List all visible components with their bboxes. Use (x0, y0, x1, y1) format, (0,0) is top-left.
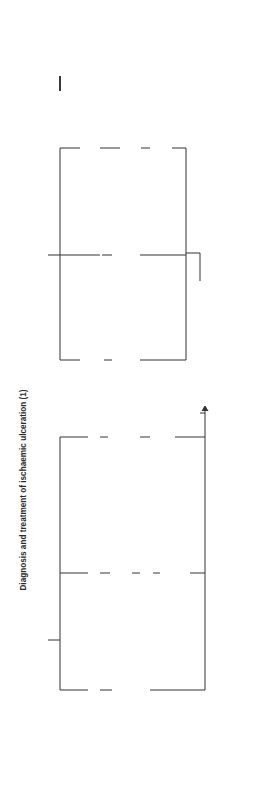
flowchart-stage: Diagnosis and treatment of ischaemic ulc… (0, 0, 262, 791)
leg-foot-bracket (0, 0, 262, 791)
diagram-title: Diagnosis and treatment of ischaemic ulc… (20, 387, 29, 592)
